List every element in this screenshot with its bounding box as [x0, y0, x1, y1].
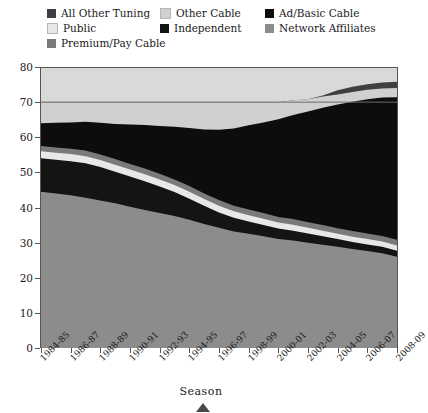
legend-item-ad-basic-cable[interactable]: Ad/Basic Cable: [265, 6, 359, 20]
legend-row-2: Public Independent Network Affiliates: [47, 21, 397, 36]
triangle-up-icon: [196, 403, 210, 412]
x-axis-title: Season: [0, 385, 402, 398]
legend-item-network-affiliates[interactable]: Network Affiliates: [265, 21, 376, 35]
legend-item-independent[interactable]: Independent: [160, 21, 265, 35]
x-tick-label-2008-09: 2008-09: [394, 330, 428, 364]
plot-area: [40, 67, 398, 348]
legend-item-all-other-tuning[interactable]: All Other Tuning: [47, 6, 160, 20]
chart-legend: All Other Tuning Other Cable Ad/Basic Ca…: [47, 6, 397, 51]
y-tick-label-50: 50: [20, 166, 33, 178]
legend-label-other-cable: Other Cable: [176, 6, 241, 20]
legend-label-all-other-tuning: All Other Tuning: [61, 6, 150, 20]
legend-item-other-cable[interactable]: Other Cable: [160, 6, 265, 20]
legend-label-premium-pay-cable: Premium/Pay Cable: [61, 36, 166, 50]
legend-label-network-affiliates: Network Affiliates: [279, 21, 376, 35]
y-tick-label-40: 40: [20, 202, 33, 214]
legend-label-ad-basic-cable: Ad/Basic Cable: [279, 6, 359, 20]
legend-label-public: Public: [63, 21, 96, 35]
legend-swatch-ad-basic-cable: [265, 9, 274, 18]
y-axis: 01020304050607080: [0, 60, 40, 360]
legend-swatch-other-cable: [160, 8, 171, 19]
legend-swatch-public: [47, 23, 58, 34]
y-tick-label-10: 10: [20, 307, 33, 319]
area-series-group: [40, 67, 398, 348]
y-tick-label-80: 80: [20, 61, 33, 73]
x-axis: 1984-851986-871988-891990-911992-931994-…: [0, 348, 402, 408]
y-tick-label-70: 70: [20, 96, 33, 108]
y-tick-label-30: 30: [20, 237, 33, 249]
legend-label-independent: Independent: [174, 21, 241, 35]
legend-swatch-premium-pay-cable: [47, 39, 56, 48]
legend-row-3: Premium/Pay Cable: [47, 36, 397, 51]
legend-item-public[interactable]: Public: [47, 21, 160, 35]
legend-row-1: All Other Tuning Other Cable Ad/Basic Ca…: [47, 6, 397, 21]
legend-swatch-all-other-tuning: [47, 9, 56, 18]
legend-swatch-network-affiliates: [265, 24, 274, 33]
legend-item-premium-pay-cable[interactable]: Premium/Pay Cable: [47, 36, 160, 50]
y-tick-label-20: 20: [20, 272, 33, 284]
legend-swatch-independent: [160, 24, 169, 33]
y-tick-label-60: 60: [20, 131, 33, 143]
